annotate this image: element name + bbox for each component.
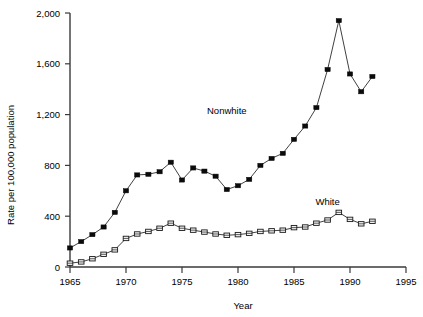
data-point-nonwhite-1971 xyxy=(135,173,140,177)
data-point-nonwhite-1988 xyxy=(325,67,330,71)
series-label-white: White xyxy=(315,196,339,207)
data-series-group xyxy=(67,19,375,266)
data-point-nonwhite-1968 xyxy=(101,225,106,229)
data-point-nonwhite-1982 xyxy=(258,163,263,167)
data-point-nonwhite-1980 xyxy=(235,184,240,188)
data-point-nonwhite-1972 xyxy=(146,172,151,176)
data-point-nonwhite-1990 xyxy=(347,72,352,76)
y-tick-label-400: 400 xyxy=(44,211,60,222)
y-tick-label-1,200: 1,200 xyxy=(36,109,60,120)
data-point-nonwhite-1969 xyxy=(112,210,117,214)
y-tick-label-1,600: 1,600 xyxy=(36,58,60,69)
y-axis-title: Rate per 100,000 population xyxy=(5,105,16,225)
data-point-nonwhite-1986 xyxy=(303,124,308,128)
x-tick-label-1970: 1970 xyxy=(115,276,136,287)
data-point-nonwhite-1981 xyxy=(247,177,252,181)
x-axis-title: Year xyxy=(233,300,252,311)
data-point-nonwhite-1975 xyxy=(179,178,184,182)
data-point-nonwhite-1984 xyxy=(280,151,285,155)
x-tick-labels: 1965197019751980198519901995 xyxy=(59,276,416,287)
data-point-nonwhite-1970 xyxy=(123,189,128,193)
x-tick-label-1995: 1995 xyxy=(395,276,416,287)
data-point-nonwhite-1978 xyxy=(213,174,218,178)
x-tick-label-1975: 1975 xyxy=(171,276,192,287)
data-point-nonwhite-1967 xyxy=(90,233,95,237)
data-point-nonwhite-1966 xyxy=(79,240,84,244)
data-point-nonwhite-1991 xyxy=(359,90,364,94)
data-point-nonwhite-1987 xyxy=(314,106,319,110)
y-axis xyxy=(65,13,70,267)
data-point-nonwhite-1974 xyxy=(168,160,173,164)
data-point-nonwhite-1979 xyxy=(224,187,229,191)
y-tick-label-0: 0 xyxy=(55,262,60,273)
data-point-nonwhite-1985 xyxy=(291,137,296,141)
y-tick-label-2,000: 2,000 xyxy=(36,8,60,19)
data-point-nonwhite-1976 xyxy=(191,166,196,170)
x-tick-label-1965: 1965 xyxy=(59,276,80,287)
data-point-nonwhite-1989 xyxy=(336,19,341,23)
series-white xyxy=(67,210,375,265)
series-label-nonwhite: Nonwhite xyxy=(207,105,247,116)
series-nonwhite xyxy=(67,19,375,251)
x-axis xyxy=(70,267,406,273)
chart-container: 04008001,2001,6002,000 19651970197519801… xyxy=(0,0,423,317)
data-point-nonwhite-1977 xyxy=(202,169,207,173)
y-tick-labels: 04008001,2001,6002,000 xyxy=(36,8,60,273)
x-tick-label-1985: 1985 xyxy=(283,276,304,287)
data-point-nonwhite-1965 xyxy=(67,246,72,250)
y-tick-label-800: 800 xyxy=(44,160,60,171)
data-point-nonwhite-1973 xyxy=(157,170,162,174)
x-tick-label-1990: 1990 xyxy=(339,276,360,287)
data-point-nonwhite-1992 xyxy=(370,74,375,78)
line-chart: 04008001,2001,6002,000 19651970197519801… xyxy=(0,0,423,317)
x-tick-label-1980: 1980 xyxy=(227,276,248,287)
data-point-nonwhite-1983 xyxy=(269,156,274,160)
